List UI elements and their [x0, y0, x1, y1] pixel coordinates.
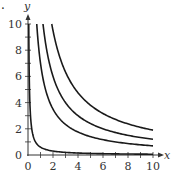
x-tick-label: 4 — [75, 160, 82, 173]
x-tick-label: 2 — [50, 160, 57, 173]
axes — [26, 14, 165, 158]
y-tick-label: 10 — [8, 18, 22, 31]
curve-k-7 — [37, 24, 153, 146]
x-tick-label: 0 — [25, 160, 32, 173]
ticks: 02468100246810 — [8, 18, 160, 173]
curve-k-12 — [43, 24, 153, 139]
curves — [29, 24, 153, 154]
x-tick-label: 6 — [100, 160, 107, 173]
chart: . 02468100246810 y x — [0, 0, 172, 174]
corner-mark: . — [1, 0, 5, 12]
x-tick-label: 10 — [146, 160, 160, 173]
y-tick-label: 8 — [15, 44, 22, 57]
curve-k-19 — [52, 24, 153, 130]
y-tick-label: 4 — [15, 97, 22, 110]
y-tick-label: 0 — [15, 149, 22, 162]
x-tick-label: 8 — [125, 160, 132, 173]
x-axis-label: x — [164, 149, 171, 162]
y-tick-label: 2 — [15, 123, 22, 136]
curve-k-0-6 — [29, 24, 153, 154]
y-axis-label: y — [23, 0, 31, 13]
y-tick-label: 6 — [15, 70, 22, 83]
y-axis-arrow-icon — [26, 14, 31, 20]
